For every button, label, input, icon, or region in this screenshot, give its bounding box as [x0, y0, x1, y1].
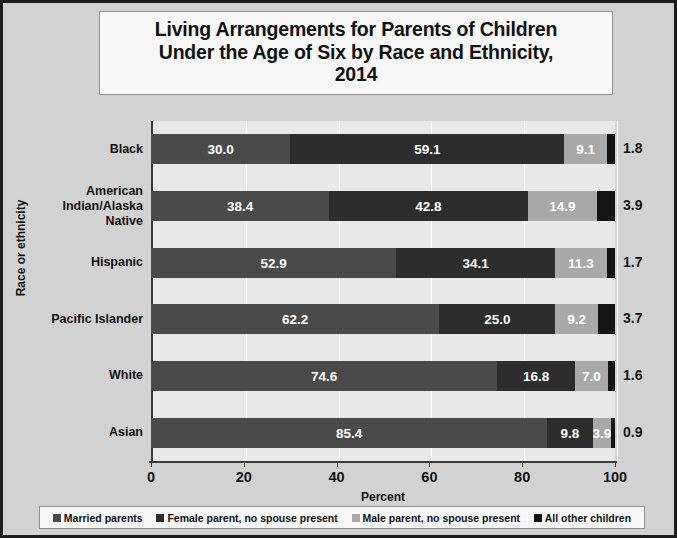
- legend-swatch-icon: [534, 514, 542, 522]
- bar-segment[interactable]: 30.0: [151, 134, 290, 164]
- chart-title-line-1: Living Arrangements for Parents of Child…: [108, 18, 604, 41]
- gridline: [524, 121, 525, 461]
- legend-item[interactable]: Married parents: [53, 512, 143, 524]
- plot-area: [151, 121, 615, 461]
- bar-segment[interactable]: [597, 191, 615, 221]
- bar-segment[interactable]: 9.2: [555, 304, 598, 334]
- bar-segment[interactable]: [607, 248, 615, 278]
- bar-segment[interactable]: 25.0: [439, 304, 555, 334]
- bar-segment-value: 34.1: [462, 256, 488, 271]
- bar-segment-value: 74.6: [311, 369, 337, 384]
- x-tick-label: 0: [121, 469, 181, 485]
- bar-segment-value: 52.9: [261, 256, 287, 271]
- chart-title-line-3: 2014: [108, 63, 604, 86]
- bar-segment-value: 11.3: [568, 256, 594, 271]
- bar-segment[interactable]: 9.1: [564, 134, 606, 164]
- bar-segment[interactable]: 59.1: [290, 134, 564, 164]
- bar-segment-value: 9.2: [567, 312, 586, 327]
- x-tick-label: 100: [585, 469, 645, 485]
- bar-segment-value: 62.2: [282, 312, 308, 327]
- category-label-line: Black: [3, 142, 143, 157]
- bar-segment-value: 14.9: [549, 199, 575, 214]
- legend-item[interactable]: Female parent, no spouse present: [156, 512, 337, 524]
- x-tick-label: 80: [492, 469, 552, 485]
- category-label: Hispanic: [3, 255, 143, 270]
- x-axis-line: [149, 461, 617, 463]
- bar-segment[interactable]: [607, 134, 615, 164]
- bar-segment-value: 9.8: [561, 426, 580, 441]
- x-tick-mark: [244, 461, 245, 467]
- x-tick-mark: [429, 461, 430, 467]
- category-label: White: [3, 368, 143, 383]
- outside-value-label: 1.8: [623, 140, 671, 156]
- bar-segment[interactable]: 14.9: [528, 191, 597, 221]
- bar-segment[interactable]: 52.9: [151, 248, 396, 278]
- category-label-line: Indian/Alaska: [3, 199, 143, 214]
- bar-segment[interactable]: 85.4: [151, 418, 547, 448]
- bar-segment-value: 59.1: [414, 142, 440, 157]
- bar-segment[interactable]: 3.9: [593, 418, 611, 448]
- stacked-bar[interactable]: 38.442.814.9: [151, 191, 615, 221]
- legend-swatch-icon: [352, 514, 360, 522]
- stacked-bar[interactable]: 74.616.87.0: [151, 361, 615, 391]
- bar-segment[interactable]: 11.3: [555, 248, 607, 278]
- x-tick-label: 40: [307, 469, 367, 485]
- bar-segment[interactable]: 9.8: [547, 418, 592, 448]
- bar-segment-value: 16.8: [523, 369, 549, 384]
- category-label: Black: [3, 142, 143, 157]
- outside-value-label: 1.6: [623, 367, 671, 383]
- bar-segment[interactable]: [611, 418, 615, 448]
- stacked-bar[interactable]: 85.49.83.9: [151, 418, 615, 448]
- legend-item[interactable]: All other children: [534, 512, 631, 524]
- outside-value-label: 3.9: [623, 197, 671, 213]
- category-label-line: Asian: [3, 425, 143, 440]
- bar-segment[interactable]: 74.6: [151, 361, 497, 391]
- category-label: Pacific Islander: [3, 312, 143, 327]
- bar-segment-value: 9.1: [576, 142, 595, 157]
- stacked-bar[interactable]: 62.225.09.2: [151, 304, 615, 334]
- outside-value-label: 1.7: [623, 254, 671, 270]
- chart-container: Living Arrangements for Parents of Child…: [0, 0, 677, 538]
- bar-segment[interactable]: [598, 304, 615, 334]
- stacked-bar[interactable]: 52.934.111.3: [151, 248, 615, 278]
- chart-title: Living Arrangements for Parents of Child…: [99, 11, 613, 95]
- gridline: [431, 121, 432, 461]
- category-label-line: Pacific Islander: [3, 312, 143, 327]
- legend-item[interactable]: Male parent, no spouse present: [352, 512, 521, 524]
- stacked-bar[interactable]: 30.059.19.1: [151, 134, 615, 164]
- legend-label: Male parent, no spouse present: [363, 512, 521, 524]
- x-axis-title: Percent: [151, 490, 615, 504]
- category-label: Asian: [3, 425, 143, 440]
- bar-segment[interactable]: [608, 361, 615, 391]
- bar-segment[interactable]: 38.4: [151, 191, 329, 221]
- gridline: [617, 121, 618, 461]
- outside-value-label: 0.9: [623, 424, 671, 440]
- category-label: AmericanIndian/AlaskaNative: [3, 184, 143, 229]
- category-label-line: American: [3, 184, 143, 199]
- gridline: [246, 121, 247, 461]
- bar-segment[interactable]: 42.8: [329, 191, 528, 221]
- bar-segment[interactable]: 16.8: [497, 361, 575, 391]
- x-tick-label: 60: [399, 469, 459, 485]
- legend-swatch-icon: [53, 514, 61, 522]
- legend-swatch-icon: [156, 514, 164, 522]
- bar-segment[interactable]: 34.1: [396, 248, 554, 278]
- x-tick-mark: [337, 461, 338, 467]
- bar-segment-value: 42.8: [415, 199, 441, 214]
- category-label-line: Native: [3, 214, 143, 229]
- bar-segment-value: 85.4: [336, 426, 362, 441]
- legend-label: Female parent, no spouse present: [167, 512, 337, 524]
- x-tick-mark: [151, 461, 152, 467]
- x-tick-mark: [615, 461, 616, 467]
- bar-segment-value: 25.0: [484, 312, 510, 327]
- outside-value-label: 3.7: [623, 310, 671, 326]
- legend-label: All other children: [545, 512, 631, 524]
- category-label-line: Hispanic: [3, 255, 143, 270]
- legend-label: Married parents: [64, 512, 143, 524]
- bar-segment[interactable]: 62.2: [151, 304, 439, 334]
- bar-segment-value: 3.9: [593, 426, 611, 441]
- bar-segment-value: 7.0: [582, 369, 601, 384]
- bar-segment[interactable]: 7.0: [575, 361, 607, 391]
- bar-segment-value: 30.0: [207, 142, 233, 157]
- x-tick-mark: [522, 461, 523, 467]
